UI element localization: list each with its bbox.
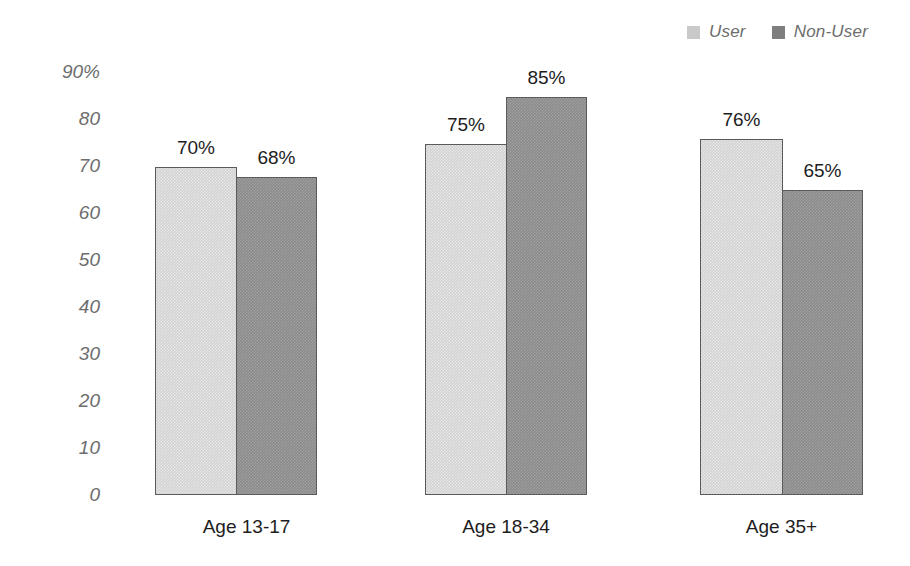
- bar-value-user-age-18-34: 75%: [447, 114, 485, 136]
- y-tick-70: 70: [30, 155, 100, 177]
- bar-group-bars: 70% 68%: [155, 95, 317, 495]
- y-tick-80: 80: [30, 108, 100, 130]
- y-tick-50: 50: [30, 249, 100, 271]
- y-tick-90: 90%: [30, 61, 100, 83]
- bar-group-age-13-17: 70% 68% Age 13-17: [155, 0, 338, 566]
- bar-chart: User Non-User 90% 80 70 60 50 40 30 20 1…: [0, 0, 910, 566]
- bar-value-non-user-age-35-plus: 65%: [803, 160, 841, 182]
- y-axis: 90% 80 70 60 50 40 30 20 10 0: [22, 0, 100, 566]
- y-tick-0: 0: [30, 484, 100, 506]
- x-label-age-35-plus: Age 35+: [700, 516, 863, 538]
- bar-group-bars: 75% 85%: [425, 75, 587, 495]
- bar-group-age-18-34: 75% 85% Age 18-34: [425, 0, 587, 566]
- y-tick-10: 10: [30, 437, 100, 459]
- y-tick-30: 30: [30, 343, 100, 365]
- bar-group-bars: 76% 65%: [700, 95, 863, 495]
- bar-value-non-user-age-13-17: 68%: [257, 147, 295, 169]
- bar-user-age-35-plus[interactable]: 76%: [700, 139, 783, 495]
- bar-value-user-age-13-17: 70%: [177, 137, 215, 159]
- plot-area: 90% 80 70 60 50 40 30 20 10 0 70% 68% Ag…: [0, 0, 910, 566]
- x-label-age-13-17: Age 13-17: [155, 516, 338, 538]
- bar-non-user-age-18-34[interactable]: 85%: [506, 97, 587, 495]
- bar-user-age-18-34[interactable]: 75%: [425, 144, 507, 495]
- bar-group-age-35-plus: 76% 65% Age 35+: [700, 0, 863, 566]
- y-tick-20: 20: [30, 390, 100, 412]
- bar-non-user-age-13-17[interactable]: 68%: [236, 177, 317, 495]
- bar-user-age-13-17[interactable]: 70%: [155, 167, 237, 495]
- bar-non-user-age-35-plus[interactable]: 65%: [782, 190, 863, 495]
- x-label-age-18-34: Age 18-34: [425, 516, 587, 538]
- y-tick-40: 40: [30, 296, 100, 318]
- y-tick-60: 60: [30, 202, 100, 224]
- bar-value-non-user-age-18-34: 85%: [527, 67, 565, 89]
- bar-value-user-age-35-plus: 76%: [722, 109, 760, 131]
